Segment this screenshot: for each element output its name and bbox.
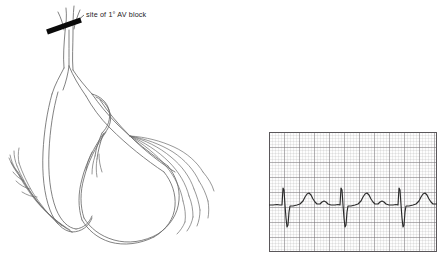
label-degree: 1° — [108, 10, 115, 19]
label-prefix: site of — [86, 10, 106, 19]
av-node-his-bundle — [58, 6, 80, 70]
conduction-system-figure: site of 1° AV block — [0, 0, 447, 262]
label-suffix: AV block — [117, 10, 146, 19]
left-bundle-branch — [43, 92, 92, 232]
bundle-bifurcation — [52, 66, 92, 96]
right-bundle-branch — [79, 94, 179, 244]
block-site-label: site of 1° AV block — [86, 10, 146, 19]
cardiac-conduction-diagram — [0, 0, 230, 262]
left-purkinje-fibers — [9, 148, 72, 232]
ecg-rhythm-strip — [269, 132, 437, 252]
ecg-svg — [269, 132, 437, 252]
ecg-grid — [269, 132, 437, 252]
